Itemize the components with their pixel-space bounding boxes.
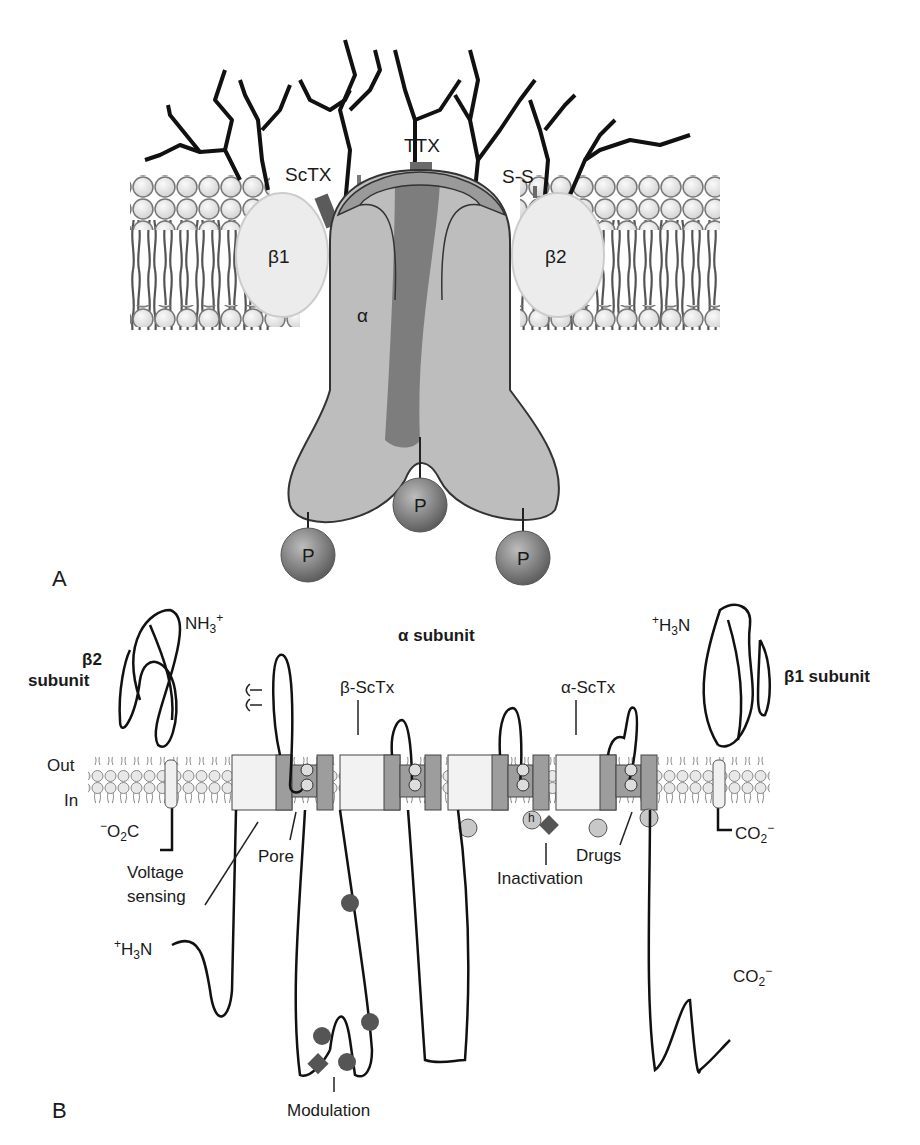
beta2-tm-helix	[165, 760, 177, 808]
domain-3	[448, 708, 549, 810]
beta2-subunit-title-2: subunit	[28, 672, 89, 689]
beta1-label: β1	[268, 247, 290, 266]
beta1-subunit-title: β1 subunit	[784, 668, 870, 685]
alpha-sctx-label: α-ScTx	[561, 679, 615, 696]
domain-1	[232, 655, 333, 810]
pore-label: Pore	[258, 848, 294, 865]
domain-4	[556, 708, 658, 827]
phospho-label-center: P	[414, 496, 427, 515]
domain-2	[340, 720, 441, 810]
panel-b-letter: B	[52, 1100, 67, 1122]
out-label: Out	[47, 757, 74, 774]
h3n-top-right-label: +H3N	[652, 614, 690, 637]
glyco-fork	[246, 684, 262, 711]
beta-sctx-label: β-ScTx	[340, 679, 394, 696]
o2c-label: −O2C	[100, 820, 139, 843]
beta2-subunit-title-1: β2	[82, 651, 102, 668]
alpha-subunit-title: α subunit	[398, 627, 475, 644]
ss-label: S-S	[502, 167, 534, 186]
beta2-label: β2	[545, 247, 567, 266]
intracellular-loops	[172, 810, 730, 1076]
ttx-label: TTX	[404, 136, 440, 155]
voltage-sensing-label-1: Voltage	[127, 864, 184, 881]
sodium-channel-diagram	[0, 0, 920, 1145]
beta2-fold	[120, 610, 180, 850]
co2-right-label: CO2−	[735, 822, 774, 845]
panel-a-letter: A	[52, 568, 67, 590]
co2-bottom-label: CO2−	[733, 965, 772, 988]
modulation-label: Modulation	[287, 1102, 370, 1119]
sctx-label: ScTX	[285, 165, 331, 184]
nh3-label: NH3+	[185, 612, 223, 635]
drugs-label: Drugs	[576, 847, 621, 864]
inactivation-phospho	[539, 815, 559, 835]
h3n-bottom-label: +H3N	[114, 938, 152, 961]
voltage-sensing-label-2: sensing	[127, 888, 186, 905]
h-gate-label: h	[528, 812, 535, 824]
alpha-label: α	[357, 306, 368, 325]
phospho-label-left: P	[302, 546, 315, 565]
modulation-phospho-sites	[307, 894, 379, 1074]
phospho-label-right: P	[517, 549, 530, 568]
inactivation-label: Inactivation	[497, 870, 583, 887]
panel-b-illustration	[88, 605, 770, 1092]
in-label: In	[64, 792, 78, 809]
beta1-tm-helix	[713, 760, 725, 808]
ss-bond	[533, 186, 537, 198]
